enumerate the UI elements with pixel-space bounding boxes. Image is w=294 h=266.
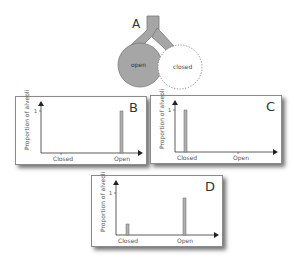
x-label-closed: Closed xyxy=(177,154,197,161)
bronchus-alveoli-illustration xyxy=(0,0,294,100)
bar-closed xyxy=(126,224,129,235)
panel-label-c: C xyxy=(266,99,275,114)
x-label-open: Open xyxy=(233,154,249,161)
bar-open xyxy=(183,198,186,235)
y-axis-label: Proportion of alveoli xyxy=(99,172,106,232)
y-tick-1: 1 xyxy=(168,107,171,113)
bar-open xyxy=(120,111,123,153)
diagram-label-a: A xyxy=(132,17,140,31)
alveoli-diagram: A open closed xyxy=(0,0,294,100)
y-tick-1: 1 xyxy=(109,190,112,196)
panel-b: Proportion of alveoli 1 Closed Open B xyxy=(15,96,147,165)
x-label-open: Open xyxy=(114,155,130,162)
y-tick-1: 1 xyxy=(34,108,37,114)
closed-alveolus-label: closed xyxy=(173,63,192,70)
y-axis-label: Proportion of alveoli xyxy=(23,90,30,150)
open-alveolus-label: open xyxy=(131,61,146,68)
x-label-closed: Closed xyxy=(53,155,73,162)
panel-d: Proportion of alveoli 1 Closed Open D xyxy=(91,175,223,247)
bar-closed xyxy=(184,110,187,152)
panel-c: Proportion of alveoli 1 Closed Open C xyxy=(150,95,282,164)
panel-label-d: D xyxy=(205,179,215,194)
panel-label-b: B xyxy=(129,100,138,115)
y-axis-label: Proportion of alveoli xyxy=(158,89,165,149)
x-label-open: Open xyxy=(177,237,193,244)
x-label-closed: Closed xyxy=(118,237,138,244)
chart-d-axes xyxy=(92,176,222,246)
